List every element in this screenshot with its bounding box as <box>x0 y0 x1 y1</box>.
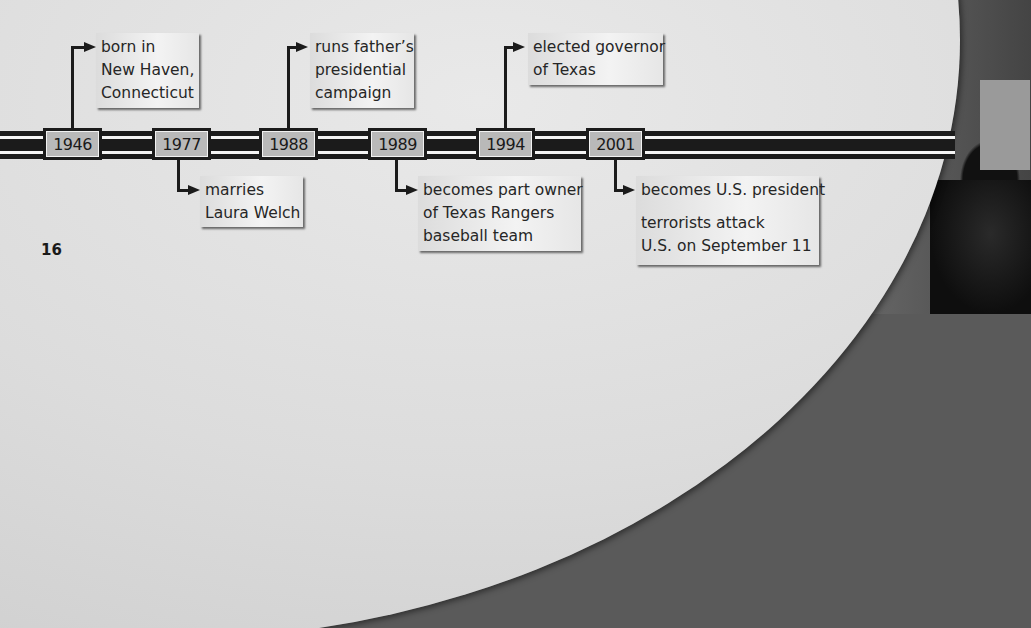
caption-line: U.S. on September 11 <box>641 237 812 255</box>
event-caption-1977: marries Laura Welch <box>200 176 303 227</box>
caption-line: becomes U.S. president <box>641 181 825 199</box>
year-label: 2001 <box>589 131 642 157</box>
caption-line: born in <box>101 38 155 56</box>
year-box-1988: 1988 <box>259 128 318 160</box>
caption-line: baseball team <box>423 227 533 245</box>
caption-line: becomes part owner <box>423 181 583 199</box>
event-caption-2001: becomes U.S. presidentterrorists attack … <box>636 176 819 265</box>
caption-line: presidential <box>315 61 406 79</box>
arrow-right-icon <box>296 42 308 52</box>
year-label: 1988 <box>262 131 315 157</box>
arrow-right-icon <box>513 42 525 52</box>
caption-line: of Texas <box>533 61 596 79</box>
caption-line: Laura Welch <box>205 204 300 222</box>
year-box-2001: 2001 <box>586 128 645 160</box>
caption-line: marries <box>205 181 264 199</box>
connector-line <box>71 46 74 130</box>
caption-line: runs father’s <box>315 38 414 56</box>
year-box-1946: 1946 <box>43 128 102 160</box>
connector-line <box>504 46 507 130</box>
event-caption-1994: elected governor of Texas <box>528 33 663 85</box>
year-label: 1977 <box>155 131 208 157</box>
event-caption-1946: born in New Haven, Connecticut <box>96 33 199 108</box>
arrow-right-icon <box>84 42 96 52</box>
caption-line: Connecticut <box>101 84 194 102</box>
arrow-right-icon <box>406 185 418 195</box>
caption-line: campaign <box>315 84 391 102</box>
year-label: 1946 <box>46 131 99 157</box>
building-photo <box>980 80 1030 170</box>
connector-line <box>614 160 617 192</box>
year-label: 1994 <box>479 131 532 157</box>
year-label: 1989 <box>371 131 424 157</box>
event-caption-1988: runs father’s presidential campaign <box>310 33 414 108</box>
year-box-1989: 1989 <box>368 128 427 160</box>
arrow-right-icon <box>188 185 200 195</box>
page-number: 16 <box>41 241 62 259</box>
caption-line: of Texas Rangers <box>423 204 554 222</box>
year-box-1977: 1977 <box>152 128 211 160</box>
connector-line <box>395 160 398 192</box>
caption-line: terrorists attack <box>641 214 765 232</box>
connector-line <box>287 46 290 130</box>
arrow-right-icon <box>623 185 635 195</box>
connector-line <box>177 160 180 192</box>
caption-line: New Haven, <box>101 61 194 79</box>
year-box-1994: 1994 <box>476 128 535 160</box>
crowd-photo <box>930 180 1031 314</box>
event-caption-1989: becomes part owner of Texas Rangers base… <box>418 176 581 251</box>
caption-line: elected governor <box>533 38 665 56</box>
